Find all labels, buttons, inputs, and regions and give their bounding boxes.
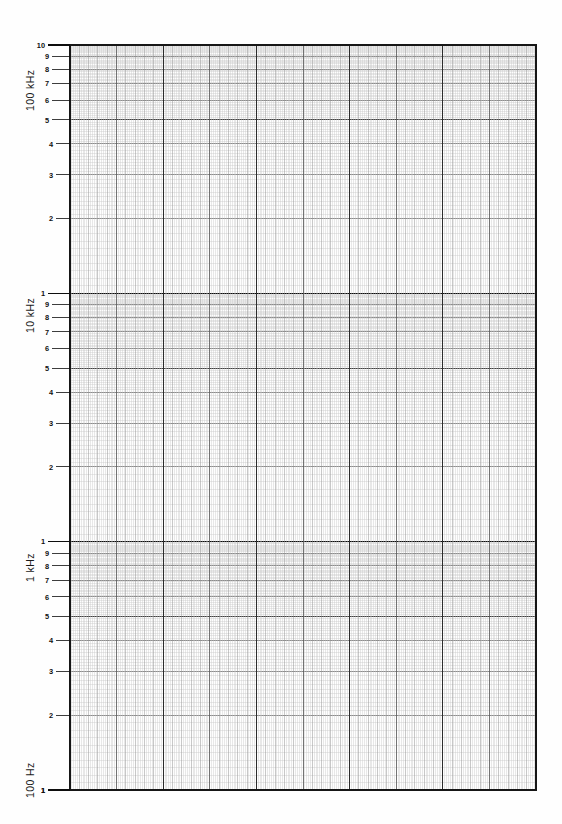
y-axis-tick-label: 2 [39,214,53,223]
log-grid [0,0,562,824]
y-axis-tick-label: 7 [35,79,49,88]
y-axis-tick-label: 2 [39,711,53,720]
y-axis-tick-label: 3 [39,171,53,180]
y-axis-tick-label: 6 [35,593,49,602]
y-axis-tick-label: 7 [35,576,49,585]
y-axis-tick-label: 6 [35,96,49,105]
y-axis-tick-label: 2 [39,463,53,472]
y-axis-tick-label: 9 [35,549,49,558]
y-axis-tick-label: 4 [39,140,53,149]
y-axis-decade-label: 100 Hz [24,762,36,798]
y-axis-tick-label: 9 [35,300,49,309]
y-axis-tick-label: 4 [39,636,53,645]
y-axis-decade-label: 1 kHz [24,553,36,582]
y-axis-tick-label: 5 [35,364,49,373]
y-axis-tick-label: 5 [35,612,49,621]
y-axis-tick-label: 3 [39,667,53,676]
y-axis-tick-label: 9 [35,52,49,61]
y-axis-tick-label: 3 [39,419,53,428]
graph-paper-sheet: 123456789101234567891234567891100 kHz10 … [0,0,562,824]
y-axis-tick-label: 8 [35,562,49,571]
y-axis-tick-label: 6 [35,344,49,353]
y-axis-decade-label: 100 kHz [24,70,36,111]
y-axis-decade-label: 10 kHz [24,298,36,333]
y-axis-tick-label: 8 [35,313,49,322]
y-axis-tick-label: 1 [31,289,45,298]
y-axis-tick-label: 4 [39,388,53,397]
y-axis-tick-label: 7 [35,328,49,337]
y-axis-tick-label: 1 [31,537,45,546]
y-axis-tick-label: 8 [35,65,49,74]
y-axis-tick-label: 10 [31,41,45,50]
y-axis-tick-label: 5 [35,116,49,125]
